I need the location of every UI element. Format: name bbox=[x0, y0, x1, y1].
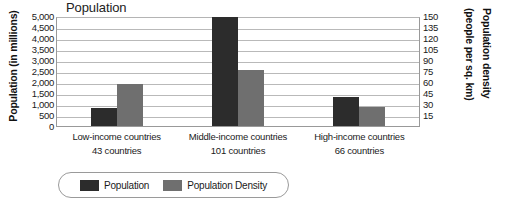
y-tick-right: 15 bbox=[423, 111, 449, 121]
x-axis-category-name: Middle-income countries bbox=[189, 131, 287, 142]
x-axis-category-count: 66 countries bbox=[299, 144, 419, 158]
bar-group bbox=[333, 18, 385, 126]
y-axis-label-right-line1: Population density bbox=[477, 8, 493, 136]
legend-label: Population bbox=[104, 180, 149, 191]
bar-group bbox=[212, 18, 264, 126]
y-tick-right: 90 bbox=[423, 56, 449, 66]
x-axis-category-count: 43 countries bbox=[57, 144, 177, 158]
y-tick-right: 120 bbox=[423, 34, 449, 44]
x-axis-category-count: 101 countries bbox=[178, 144, 298, 158]
bar-population-density bbox=[238, 70, 264, 126]
y-tick-left: 2,000 bbox=[18, 78, 54, 88]
x-axis-category-labels: Low-income countries43 countriesMiddle-i… bbox=[56, 130, 420, 162]
y-tick-left: 3,000 bbox=[18, 56, 54, 66]
legend-item: Population Density bbox=[163, 180, 267, 191]
y-tick-left: 5,000 bbox=[18, 12, 54, 22]
x-axis-category-name: Low-income countries bbox=[72, 131, 160, 142]
y-tick-left: 500 bbox=[18, 111, 54, 121]
y-axis-label-right: (people per sq. km) Population density bbox=[444, 8, 506, 136]
population-bar-chart: Population Population (in millions) (peo… bbox=[0, 0, 514, 206]
chart-legend: PopulationPopulation Density bbox=[58, 172, 289, 198]
bar-population bbox=[333, 97, 359, 126]
x-axis-category: Middle-income countries101 countries bbox=[178, 130, 298, 162]
legend-swatch-icon bbox=[163, 180, 182, 191]
y-tick-right: 135 bbox=[423, 23, 449, 33]
y-tick-left: 1,000 bbox=[18, 100, 54, 110]
y-tick-left: 3,500 bbox=[18, 45, 54, 55]
y-tick-left: 2,500 bbox=[18, 67, 54, 77]
bar-population bbox=[91, 108, 117, 126]
bar-population-density bbox=[359, 107, 385, 126]
y-tick-left: 1,500 bbox=[18, 89, 54, 99]
y-tick-left: 4,500 bbox=[18, 23, 54, 33]
y-tick-right: 30 bbox=[423, 100, 449, 110]
y-tick-left: 4,000 bbox=[18, 34, 54, 44]
y-tick-right: 75 bbox=[423, 67, 449, 77]
bar-population bbox=[212, 17, 238, 126]
y-tick-right: 150 bbox=[423, 12, 449, 22]
legend-swatch-icon bbox=[80, 180, 99, 191]
x-axis-category: Low-income countries43 countries bbox=[57, 130, 177, 162]
chart-title: Population bbox=[66, 0, 126, 15]
y-axis-label-right-line2: (people per sq. km) bbox=[460, 8, 476, 136]
bar-population-density bbox=[117, 84, 143, 126]
bar-group bbox=[91, 18, 143, 126]
y-tick-right: 45 bbox=[423, 89, 449, 99]
y-tick-right: 105 bbox=[423, 45, 449, 55]
y-tick-left: 0 bbox=[18, 122, 54, 132]
plot-area bbox=[56, 17, 420, 127]
y-tick-right: 60 bbox=[423, 78, 449, 88]
legend-item: Population bbox=[80, 180, 149, 191]
legend-label: Population Density bbox=[187, 180, 267, 191]
x-axis-category-name: High-income countries bbox=[314, 131, 404, 142]
x-axis-category: High-income countries66 countries bbox=[299, 130, 419, 162]
bar-groups bbox=[57, 18, 419, 126]
